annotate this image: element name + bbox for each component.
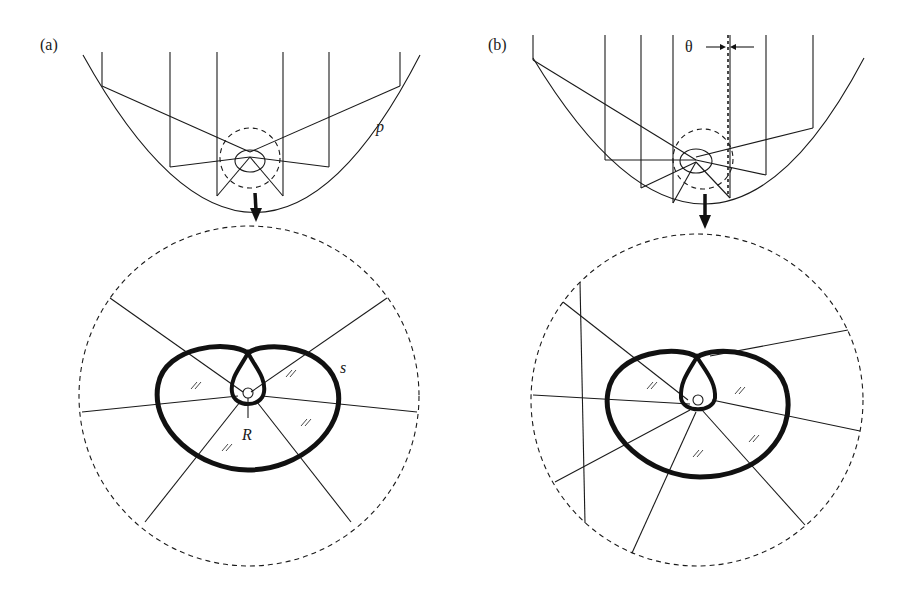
surface-label-s: s: [340, 359, 346, 376]
figure-canvas: (a) p: [0, 0, 908, 595]
angle-label-theta: θ: [685, 38, 693, 55]
magnify-circle-small-a: [220, 128, 280, 188]
radius-label-R: R: [241, 426, 252, 443]
magnified-rays-b: [533, 282, 860, 553]
absorber-circle-a: [243, 388, 253, 398]
small-receiver-a: [235, 150, 265, 172]
panel-a-label: (a): [40, 36, 58, 54]
curve-label-p: p: [375, 118, 384, 136]
panel-b-label: (b): [488, 36, 507, 54]
panel-a: (a) p: [40, 36, 420, 566]
arrow-down-icon: [250, 193, 262, 222]
hatch-marks-b: [647, 382, 759, 457]
magnified-rays-a: [82, 298, 417, 522]
magnify-circle-large-a: [79, 226, 419, 566]
panel-b: (b) θ: [488, 35, 864, 566]
surface-s-b: [607, 351, 788, 477]
vertical-rays-a: [102, 52, 400, 196]
reflected-rays-a: [102, 86, 400, 196]
magnify-circle-large-b: [531, 234, 863, 566]
teardrop-receiver-b: [681, 357, 715, 409]
arrow-down-icon: [699, 194, 711, 229]
absorber-circle-b: [693, 395, 703, 405]
parabola-a: [83, 55, 420, 213]
parabola-b: [533, 58, 864, 204]
small-receiver-b: [680, 149, 712, 173]
magnify-circle-small-b: [673, 129, 733, 189]
